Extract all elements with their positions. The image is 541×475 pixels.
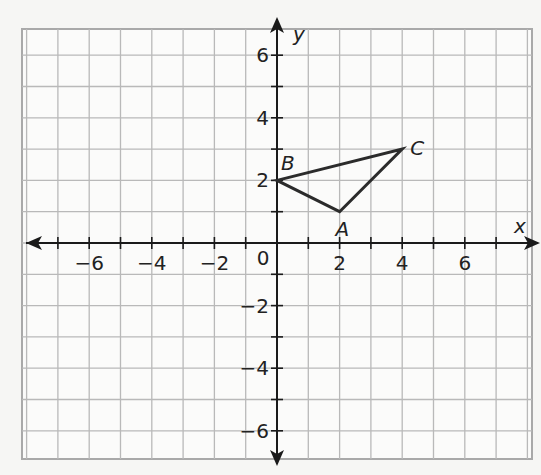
y-tick-label: −2 [240,294,269,318]
point-label-a: A [334,217,350,241]
y-tick-label: 6 [256,43,269,67]
x-axis-label: x [513,214,526,238]
point-label-b: B [281,151,295,175]
coordinate-plane: −6−4−2246642−2−4−60yxABC [0,0,541,475]
y-tick-label: −4 [240,356,269,380]
x-tick-label: −2 [200,251,229,275]
origin-label: 0 [257,246,270,270]
y-tick-label: 2 [256,168,269,192]
x-tick-label: −4 [137,251,166,275]
x-tick-label: 6 [458,251,471,275]
x-tick-label: 2 [333,251,346,275]
y-tick-label: 4 [256,106,269,130]
y-tick-label: −6 [240,419,269,443]
point-label-c: C [410,136,424,160]
x-tick-label: −6 [74,251,103,275]
y-axis-label: y [292,22,306,46]
x-tick-label: 4 [396,251,409,275]
